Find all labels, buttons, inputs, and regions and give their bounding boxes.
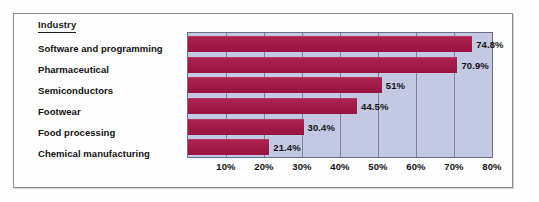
legend-title: Industry xyxy=(38,19,76,33)
x-tick-label: 50% xyxy=(368,161,387,172)
chart-frame: Industry Software and programming Pharma… xyxy=(13,13,513,188)
bar-row: 70.9% xyxy=(188,57,492,72)
x-tick-label: 30% xyxy=(292,161,311,172)
category-label-footwear: Footwear xyxy=(38,106,81,117)
bar-row: 30.4% xyxy=(188,119,492,134)
chart-screenshot: Industry Software and programming Pharma… xyxy=(0,0,539,202)
plot-area: 74.8%70.9%51%44.5%30.4%21.4% xyxy=(187,32,493,158)
x-axis: 10%20%30%40%50%60%70%80% xyxy=(187,158,493,180)
category-label-semiconductors: Semiconductors xyxy=(38,85,113,96)
bar-value-label: 51% xyxy=(382,79,405,90)
bar-value-label: 21.4% xyxy=(269,141,300,152)
bar[interactable] xyxy=(188,98,357,114)
bar[interactable] xyxy=(188,57,457,73)
category-label-column: Industry Software and programming Pharma… xyxy=(26,19,196,179)
x-tick-label: 20% xyxy=(254,161,273,172)
category-label-chemical-manufacturing: Chemical manufacturing xyxy=(38,148,150,159)
bar-series: 74.8%70.9%51%44.5%30.4%21.4% xyxy=(188,33,492,157)
bar-value-label: 30.4% xyxy=(304,121,335,132)
bar-value-label: 44.5% xyxy=(357,100,388,111)
bar-value-label: 74.8% xyxy=(472,38,503,49)
category-label-pharmaceutical: Pharmaceutical xyxy=(38,64,109,75)
category-label-food-processing: Food processing xyxy=(38,127,115,138)
category-label-software-and-programming: Software and programming xyxy=(38,43,163,54)
bar-value-label: 70.9% xyxy=(457,59,488,70)
bar[interactable] xyxy=(188,77,382,93)
bar[interactable] xyxy=(188,119,304,135)
bar[interactable] xyxy=(188,36,472,52)
x-tick-label: 70% xyxy=(444,161,463,172)
x-tick-label: 80% xyxy=(482,161,501,172)
bar-row: 21.4% xyxy=(188,139,492,154)
x-tick-label: 60% xyxy=(406,161,425,172)
bar-row: 74.8% xyxy=(188,36,492,51)
x-tick-label: 40% xyxy=(330,161,349,172)
bar-row: 51% xyxy=(188,77,492,92)
bar[interactable] xyxy=(188,139,269,155)
bar-row: 44.5% xyxy=(188,98,492,113)
x-tick-label: 10% xyxy=(216,161,235,172)
